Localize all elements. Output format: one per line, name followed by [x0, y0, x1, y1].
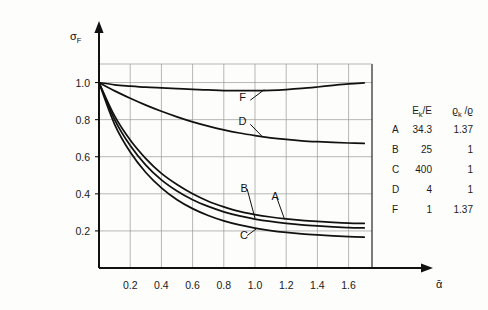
legend-row-name-c: C [392, 164, 399, 175]
chart-background [0, 0, 488, 310]
curve-label-d: D [239, 115, 247, 127]
y-tick-label-3: 0.8 [75, 114, 90, 126]
x-tick-label-5: 1.2 [279, 279, 294, 291]
curve-label-f: F [239, 91, 246, 103]
x-tick-label-2: 0.6 [185, 279, 200, 291]
y-tick-label-1: 0.4 [75, 188, 90, 200]
curve-label-b: B [240, 182, 247, 194]
legend-row-name-f: F [392, 204, 398, 215]
legend-row-name-a: A [392, 124, 399, 135]
y-tick-label-0: 0.2 [75, 225, 90, 237]
legend-row-modulus-a: 34.3 [413, 124, 433, 135]
y-tick-label-4: 1.0 [75, 77, 90, 89]
chart-svg: 0.20.40.60.81.01.21.41.6 0.20.40.60.81.0… [0, 0, 488, 310]
x-tick-label-0: 0.2 [123, 279, 138, 291]
x-tick-label-3: 0.8 [216, 279, 231, 291]
legend-row-modulus-d: 4 [426, 184, 432, 195]
legend-row-density-f: 1.37 [454, 204, 474, 215]
legend-row-density-d: 1 [467, 184, 473, 195]
legend-row-modulus-b: 25 [421, 144, 433, 155]
legend-row-modulus-c: 400 [415, 164, 432, 175]
x-tick-label-6: 1.4 [310, 279, 325, 291]
x-axis-label: ᾱ [436, 278, 443, 290]
legend-row-density-a: 1.37 [454, 124, 474, 135]
legend-row-modulus-f: 1 [426, 204, 432, 215]
curve-label-a: A [272, 190, 280, 202]
legend-row-name-d: D [392, 184, 399, 195]
y-tick-label-2: 0.6 [75, 151, 90, 163]
curve-label-c: C [240, 229, 248, 241]
legend-row-density-b: 1 [467, 144, 473, 155]
legend-row-name-b: B [392, 144, 399, 155]
x-tick-label-1: 0.4 [154, 279, 169, 291]
chart-figure: 0.20.40.60.81.01.21.41.6 0.20.40.60.81.0… [0, 0, 488, 310]
x-tick-label-4: 1.0 [248, 279, 263, 291]
x-tick-label-7: 1.6 [341, 279, 356, 291]
legend-row-density-c: 1 [467, 164, 473, 175]
